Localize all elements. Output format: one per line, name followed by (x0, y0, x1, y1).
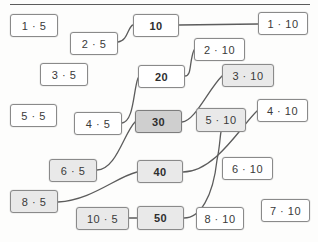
card-6x5[interactable]: 6 · 5 (49, 159, 97, 182)
connector-10-to-1x10 (179, 24, 258, 25)
card-label: 10 · 5 (87, 213, 118, 225)
card-20[interactable]: 20 (138, 65, 185, 88)
card-label: 2 · 5 (82, 38, 107, 50)
card-label: 2 · 10 (204, 44, 235, 56)
header-divider-rule (10, 4, 310, 5)
card-1x10[interactable]: 1 · 10 (258, 12, 308, 35)
card-label: 20 (155, 71, 168, 83)
card-label: 3 · 10 (232, 70, 263, 82)
card-label: 6 · 5 (61, 165, 86, 177)
card-10x5[interactable]: 10 · 5 (76, 207, 129, 230)
card-1x5[interactable]: 1 · 5 (10, 14, 58, 37)
card-label: 40 (153, 166, 166, 178)
card-8x5[interactable]: 8 · 5 (10, 190, 58, 213)
card-3x10[interactable]: 3 · 10 (222, 64, 274, 87)
card-6x10[interactable]: 6 · 10 (222, 157, 273, 180)
card-label: 3 · 5 (52, 69, 77, 81)
card-label: 4 · 5 (86, 118, 111, 130)
card-2x10[interactable]: 2 · 10 (194, 38, 245, 61)
card-label: 10 (149, 20, 162, 32)
card-2x5[interactable]: 2 · 5 (70, 32, 118, 55)
card-label: 8 · 5 (22, 196, 47, 208)
card-8x10[interactable]: 8 · 10 (196, 207, 244, 230)
card-label: 8 · 10 (204, 213, 235, 225)
card-label: 1 · 10 (267, 18, 298, 30)
card-label: 1 · 5 (22, 20, 47, 32)
card-5x5[interactable]: 5 · 5 (10, 104, 57, 127)
card-30[interactable]: 30 (135, 110, 182, 133)
card-label: 4 · 10 (267, 105, 298, 117)
card-3x5[interactable]: 3 · 5 (40, 63, 88, 86)
card-50[interactable]: 50 (137, 206, 184, 230)
card-4x5[interactable]: 4 · 5 (74, 112, 122, 135)
card-40[interactable]: 40 (137, 160, 183, 183)
worksheet-canvas: 1 · 52 · 53 · 55 · 54 · 56 · 58 · 510 · … (0, 0, 318, 242)
card-label: 6 · 10 (232, 163, 263, 175)
card-4x10[interactable]: 4 · 10 (257, 99, 308, 122)
card-label: 5 · 5 (21, 110, 46, 122)
card-7x10[interactable]: 7 · 10 (261, 199, 310, 222)
connector-2x5-to-10 (118, 25, 133, 42)
connector-20-to-2x10 (185, 50, 194, 76)
connector-50-to-5x10 (184, 132, 221, 218)
card-10[interactable]: 10 (133, 14, 179, 37)
card-label: 50 (154, 212, 167, 224)
card-label: 5 · 10 (205, 114, 236, 126)
card-label: 30 (152, 116, 165, 128)
card-label: 7 · 10 (270, 205, 301, 217)
card-5x10[interactable]: 5 · 10 (196, 108, 246, 132)
